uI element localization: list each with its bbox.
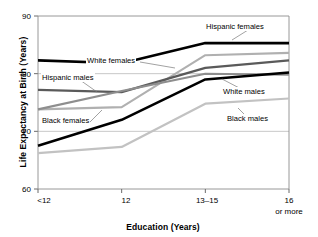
series-line-black-males — [38, 99, 289, 154]
series-label-white-males: White males — [222, 87, 266, 96]
life-expectancy-line-chart: Life Expectancy at Birth (Years) Educati… — [0, 0, 318, 237]
series-label-black-females: Black females — [41, 116, 90, 125]
series-label-hispanic-males: Hispanic males — [41, 73, 95, 82]
callout-leader-line — [140, 62, 175, 68]
series-label-white-females: White females — [86, 56, 136, 65]
series-label-black-males: Black males — [226, 114, 269, 123]
callout-leader-line — [232, 30, 248, 40]
series-label-hispanic-females: Hispanic females — [205, 22, 265, 31]
